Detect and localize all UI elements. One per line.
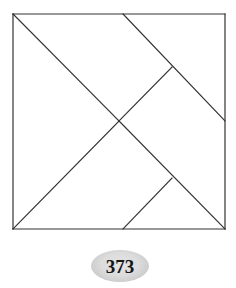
main-diagonal-center-to-bottomright [119,121,225,229]
anti-diagonal-topmid-to-rightmid [123,14,225,121]
tangram-line-group [13,14,225,229]
tangram-figure: 373 [0,0,236,288]
main-diagonal-topleft-to-center [13,14,119,121]
lower-branch-to-bottommid [123,178,172,229]
upper-branch-to-center [119,67,172,121]
figure-number-label: 373 [106,257,135,276]
anti-diagonal-center-to-bottomleft [13,121,119,229]
figure-number-badge: 373 [91,250,149,282]
tangram-diagram-svg [0,0,236,288]
